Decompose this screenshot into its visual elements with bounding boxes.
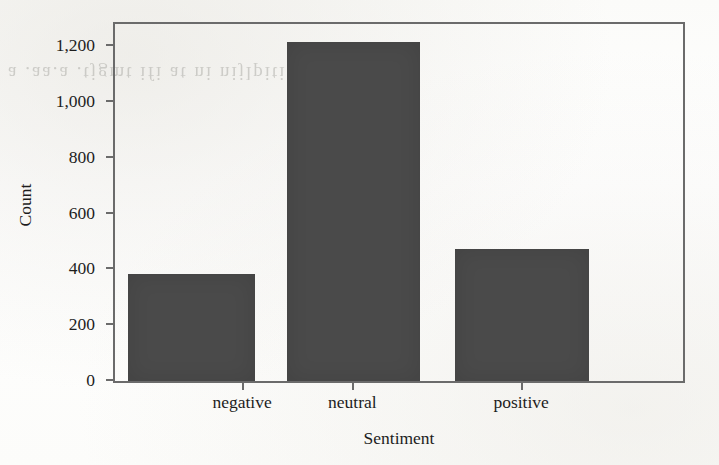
plot-area: 02004006008001,0001,200 negativeneutralp… xyxy=(113,22,685,383)
bar-positive xyxy=(455,249,589,381)
x-tick-mark xyxy=(521,381,523,390)
y-tick-mark: 0 xyxy=(106,379,115,381)
y-tick-label: 1,200 xyxy=(56,37,95,55)
y-tick-mark: 800 xyxy=(106,156,115,158)
x-tick-label-negative: negative xyxy=(212,394,271,412)
bar-neutral xyxy=(287,42,420,381)
y-tick-label: 0 xyxy=(86,372,95,390)
y-tick-label: 200 xyxy=(69,316,95,334)
x-tick-label-neutral: neutral xyxy=(328,394,377,412)
y-tick-mark: 600 xyxy=(106,212,115,214)
x-tick-label-positive: positive xyxy=(493,394,548,412)
figure-canvas: a .aa.a .tjgmt ifi at ni nijlpiti a'an a… xyxy=(0,0,719,465)
x-tick-mark xyxy=(242,381,244,390)
bar-negative xyxy=(128,274,255,381)
y-tick-label: 600 xyxy=(69,205,95,223)
y-tick-label: 1,000 xyxy=(56,93,95,111)
y-tick-label: 400 xyxy=(69,260,95,278)
x-axis-label: Sentiment xyxy=(364,428,435,449)
y-tick-label: 800 xyxy=(69,149,95,167)
y-tick-mark: 200 xyxy=(106,323,115,325)
y-tick-mark: 400 xyxy=(106,267,115,269)
x-tick-mark xyxy=(352,381,354,390)
y-tick-mark: 1,200 xyxy=(106,44,115,46)
y-tick-mark: 1,000 xyxy=(106,100,115,102)
y-axis-label: Count xyxy=(15,184,36,227)
